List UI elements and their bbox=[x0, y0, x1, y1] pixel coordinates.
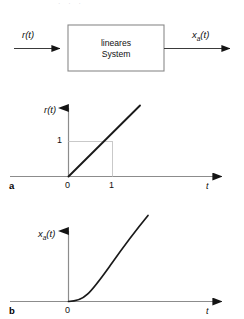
block-output-tail: (t) bbox=[200, 29, 209, 40]
panel-b-response-curve bbox=[69, 216, 149, 302]
panel-a-y-axis-label: r(t) bbox=[44, 105, 56, 115]
panel-a-letter: a bbox=[9, 181, 14, 191]
panel-a-x-tick-0: 0 bbox=[65, 181, 70, 190]
block-output-label: xa(t) bbox=[192, 30, 209, 42]
panel-a-group bbox=[10, 106, 222, 177]
block-label-line2: System bbox=[102, 49, 131, 59]
panel-a-x-axis-label: t bbox=[206, 182, 209, 191]
panel-b-x-axis-label: t bbox=[206, 307, 209, 316]
block-input-label: r(t) bbox=[22, 30, 34, 40]
panel-b-letter: b bbox=[9, 306, 15, 316]
panel-b-y-label-tail: (t) bbox=[46, 228, 55, 239]
panel-b-x-tick-0: 0 bbox=[65, 306, 70, 315]
block-label-line1: lineares bbox=[101, 38, 131, 48]
figure-container: · · · bbox=[0, 0, 244, 319]
panel-a-y-tick-1: 1 bbox=[57, 136, 62, 145]
block-label-text: lineares System bbox=[68, 38, 164, 61]
panel-b-y-axis-label: xa(t) bbox=[38, 229, 55, 241]
panel-a-x-tick-1: 1 bbox=[109, 181, 114, 190]
